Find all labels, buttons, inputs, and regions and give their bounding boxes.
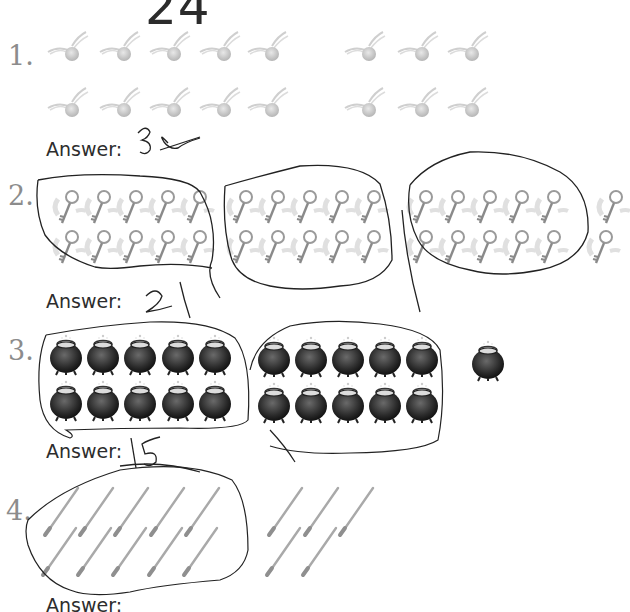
worksheet-graphics — [0, 0, 630, 612]
question-1-snitches — [48, 32, 488, 117]
question-2-keys — [55, 191, 630, 263]
question-4-wands — [43, 488, 373, 575]
question-3-cauldrons — [50, 335, 504, 423]
